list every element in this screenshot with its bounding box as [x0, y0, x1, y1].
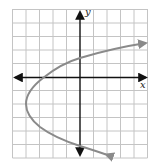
- y-axis-label: y: [85, 7, 91, 17]
- parabola-curve: [26, 43, 146, 155]
- axes: [15, 12, 146, 155]
- x-axis-label: x: [140, 80, 146, 90]
- coordinate-graph: [0, 0, 155, 167]
